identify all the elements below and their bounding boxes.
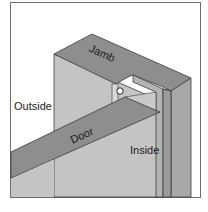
inside-label: Inside — [130, 144, 159, 156]
outside-label: Outside — [14, 100, 52, 112]
door-jamb-diagram: Jamb Outside Door Inside — [0, 0, 208, 212]
jamb-side-face — [171, 78, 191, 197]
weatherstrip-bulb-icon — [117, 88, 123, 94]
jamb-front-strip — [163, 89, 171, 197]
